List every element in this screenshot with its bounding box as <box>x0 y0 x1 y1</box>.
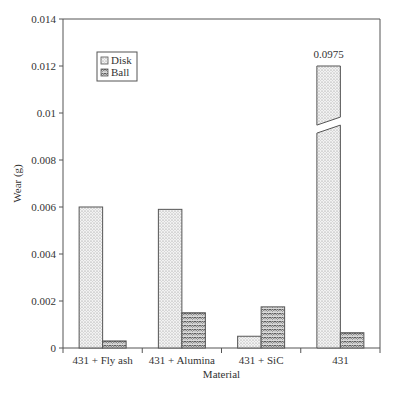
bar-ball <box>261 307 285 348</box>
legend-swatch-disk <box>101 57 108 64</box>
x-category-label: 431 + Fly ash <box>72 354 133 366</box>
y-axis-title: Wear (g) <box>11 164 24 203</box>
bar-disk <box>79 207 103 348</box>
x-category-label: 431 + SiC <box>239 354 284 366</box>
y-tick-label: 0.012 <box>31 60 56 72</box>
y-tick-label: 0 <box>51 342 57 354</box>
bar-disk <box>238 336 262 348</box>
y-tick-label: 0.01 <box>37 107 56 119</box>
bar-disk-431-lower <box>317 125 341 348</box>
y-tick-label: 0.014 <box>31 13 56 25</box>
bar-ball <box>340 333 364 348</box>
y-tick-label: 0.006 <box>31 201 56 213</box>
legend-swatch-ball <box>101 69 108 76</box>
x-axis-title: Material <box>203 368 240 380</box>
bar-annotation: 0.0975 <box>314 48 345 60</box>
legend: DiskBall <box>97 52 137 81</box>
plot-area: 00.0020.0040.0060.0080.010.0120.014431 +… <box>11 13 380 380</box>
x-category-label: 431 + Alumina <box>149 354 215 366</box>
y-tick-label: 0.002 <box>31 295 56 307</box>
y-tick-label: 0.008 <box>31 154 56 166</box>
wear-bar-chart: 00.0020.0040.0060.0080.010.0120.014431 +… <box>0 0 395 394</box>
x-category-label: 431 <box>332 354 349 366</box>
bar-ball <box>182 313 206 348</box>
bar-disk <box>158 209 182 348</box>
legend-label-disk: Disk <box>111 54 132 66</box>
legend-label-ball: Ball <box>111 66 129 78</box>
y-tick-label: 0.004 <box>31 248 56 260</box>
bar-ball <box>103 341 127 348</box>
bar-disk-431-upper <box>317 66 341 125</box>
